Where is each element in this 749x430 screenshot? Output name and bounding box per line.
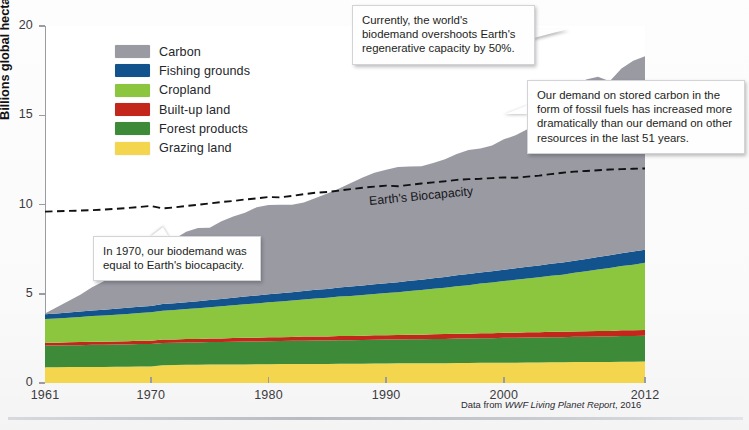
x-tick-label: 1970 [137,388,166,402]
legend-label: Built-up land [159,103,230,117]
legend-item: Forest products [115,119,250,138]
source-prefix: Data from [461,399,505,410]
x-tick-label: 1961 [31,388,60,402]
callout-overshoot: Currently, the world's biodemand oversho… [352,5,535,65]
legend-item: Fishing grounds [115,61,250,80]
y-tick-mark [39,204,45,206]
callout-1970-biodemand: In 1970, our biodemand was equal to Eart… [93,236,261,281]
source-attribution: Data from WWF Living Planet Report, 2016 [461,399,641,410]
callout-overshoot-tail [534,29,568,38]
bottom-rule-divider [8,417,743,420]
x-tick-mark [644,377,646,383]
x-tick-label: 1980 [254,388,283,402]
figure-root: 05101520 196119701980199020002012 Carbon… [0,0,749,430]
y-tick-mark [39,382,45,384]
legend-swatch [115,142,150,155]
y-tick-label: 10 [0,197,33,211]
legend-label: Grazing land [159,141,232,155]
legend-label: Fishing grounds [159,64,250,78]
legend-label: Forest products [159,122,248,136]
y-axis-title: Billions global hectares (gha) [0,0,12,120]
y-tick-label: 0 [0,375,33,389]
y-tick-mark [39,293,45,295]
legend-swatch [115,122,150,135]
y-tick-mark [39,115,45,117]
source-publication: WWF Living Planet Report [505,399,615,410]
x-tick-mark [268,377,270,383]
legend-label: Carbon [159,45,201,59]
legend-swatch [115,64,150,77]
y-tick-mark [39,25,45,27]
legend-swatch [115,45,150,58]
legend-item: Cropland [115,81,250,100]
chart-legend: CarbonFishing groundsCroplandBuilt-up la… [115,42,250,158]
legend-swatch [115,84,150,97]
x-tick-mark [503,377,505,383]
legend-label: Cropland [159,83,211,97]
callout-carbon-tail [505,105,528,114]
legend-item: Carbon [115,42,250,61]
callout-carbon-demand: Our demand on stored carbon in the form … [527,80,745,154]
x-tick-label: 1990 [372,388,401,402]
x-tick-mark [385,377,387,383]
x-tick-mark [150,377,152,383]
legend-item: Built-up land [115,100,250,119]
legend-swatch [115,103,150,116]
legend-item: Grazing land [115,138,250,157]
source-suffix: , 2016 [615,399,641,410]
y-tick-label: 5 [0,286,33,300]
